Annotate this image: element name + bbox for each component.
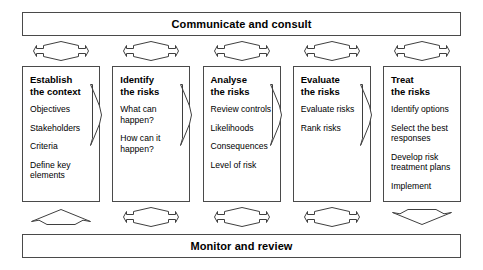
down-arrow-icon [392, 208, 452, 226]
stage-box-treat-the-risks[interactable]: Treat the risks Identify options Select … [383, 66, 461, 202]
stage-item: Stakeholders [30, 123, 93, 134]
top-connector-cell-4 [293, 40, 371, 62]
bottom-connector-cell-1 [22, 206, 100, 228]
bottom-connector-cell-2 [112, 206, 190, 228]
stage-item: Objectives [30, 104, 93, 115]
stage-item: Identify options [391, 104, 454, 115]
stage-title: Establish the context [30, 74, 93, 97]
stage-item: Define key elements [30, 160, 93, 181]
stage-title: Analyse the risks [211, 74, 274, 97]
double-headed-horizontal-arrow-icon [33, 41, 89, 61]
stage-item: How can it happen? [120, 133, 183, 154]
stage-title: Treat the risks [391, 74, 454, 97]
stage-item: Implement [391, 181, 454, 192]
stage-item: Develop risk treatment plans [391, 152, 454, 173]
top-connector-cell-2 [112, 40, 190, 62]
top-connector-cell-1 [22, 40, 100, 62]
double-headed-horizontal-arrow-icon [123, 41, 179, 61]
stage-item: Review controls [211, 104, 274, 115]
up-arrow-icon [31, 208, 91, 226]
stage-item: Likelihoods [211, 123, 274, 134]
communicate-and-consult-banner: Communicate and consult [22, 12, 461, 36]
monitor-and-review-label: Monitor and review [190, 241, 292, 252]
top-connector-cell-5 [383, 40, 461, 62]
double-headed-horizontal-arrow-icon [123, 207, 179, 227]
stage-item-list: Evaluate risks Rank risks [301, 104, 364, 133]
stage-item-list: Review controls Likelihoods Consequences… [211, 104, 274, 170]
process-stage-columns: Establish the context Objectives Stakeho… [22, 66, 461, 202]
stage-item: Level of risk [211, 160, 274, 171]
stage-item: Consequences [211, 141, 274, 152]
top-connector-arrow-row [22, 40, 461, 62]
double-headed-horizontal-arrow-icon [394, 41, 450, 61]
bottom-connector-arrow-row [22, 206, 461, 228]
double-headed-horizontal-arrow-icon [214, 207, 270, 227]
stage-item: Rank risks [301, 123, 364, 134]
stage-item-list: Objectives Stakeholders Criteria Define … [30, 104, 93, 181]
double-headed-horizontal-arrow-icon [304, 207, 360, 227]
stage-box-establish-the-context[interactable]: Establish the context Objectives Stakeho… [22, 66, 100, 202]
double-headed-horizontal-arrow-icon [214, 41, 270, 61]
stage-box-identify-the-risks[interactable]: Identify the risks What can happen? How … [112, 66, 190, 202]
double-headed-horizontal-arrow-icon [304, 41, 360, 61]
stage-item: Select the best responses [391, 123, 454, 144]
risk-management-process-diagram: Communicate and consult [0, 0, 483, 270]
stage-item: Criteria [30, 141, 93, 152]
stage-title: Evaluate the risks [301, 74, 364, 97]
stage-title: Identify the risks [120, 74, 183, 97]
stage-box-evaluate-the-risks[interactable]: Evaluate the risks Evaluate risks Rank r… [293, 66, 371, 202]
stage-item: What can happen? [120, 104, 183, 125]
stage-item-list: Identify options Select the best respons… [391, 104, 454, 191]
bottom-connector-cell-5 [383, 206, 461, 228]
bottom-connector-cell-3 [203, 206, 281, 228]
stage-item: Evaluate risks [301, 104, 364, 115]
communicate-and-consult-label: Communicate and consult [172, 19, 312, 30]
stage-box-analyse-the-risks[interactable]: Analyse the risks Review controls Likeli… [203, 66, 281, 202]
bottom-connector-cell-4 [293, 206, 371, 228]
top-connector-cell-3 [203, 40, 281, 62]
stage-item-list: What can happen? How can it happen? [120, 104, 183, 154]
monitor-and-review-banner: Monitor and review [22, 234, 461, 258]
